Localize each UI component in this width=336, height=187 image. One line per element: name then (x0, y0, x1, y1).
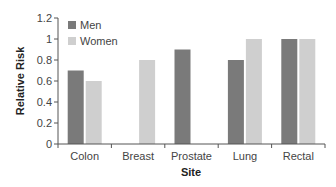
y-tick-label: 1 (46, 33, 52, 45)
bar-men-lung (228, 60, 244, 144)
bar-women-breast (139, 60, 155, 144)
bar-men-prostate (175, 50, 191, 145)
y-tick-label: 0.6 (37, 75, 52, 87)
x-tick-label: Colon (70, 150, 99, 162)
x-axis-title: Site (181, 166, 201, 178)
bar-women-lung (246, 39, 262, 144)
bars (68, 39, 316, 144)
x-tick-label: Breast (122, 150, 154, 162)
legend-label-men: Men (80, 19, 101, 31)
legend-swatch-women (68, 37, 76, 45)
y-tick-label: 1.2 (37, 12, 52, 24)
legend-label-women: Women (80, 35, 118, 47)
x-tick-label: Prostate (171, 150, 212, 162)
y-tick-label: 0.4 (37, 96, 52, 108)
legend: MenWomen (68, 19, 118, 47)
y-tick-label: 0.2 (37, 117, 52, 129)
bar-men-rectal (281, 39, 297, 144)
x-tick-label: Rectal (283, 150, 314, 162)
y-axis: 00.20.40.60.811.2 (37, 12, 58, 150)
y-tick-label: 0.8 (37, 54, 52, 66)
x-tick-label: Lung (233, 150, 257, 162)
bar-men-colon (68, 71, 84, 145)
bar-women-colon (86, 81, 102, 144)
bar-chart: 00.20.40.60.811.2 ColonBreastProstateLun… (0, 0, 336, 187)
x-axis: ColonBreastProstateLungRectal (58, 144, 325, 162)
bar-women-rectal (299, 39, 315, 144)
legend-swatch-men (68, 21, 76, 29)
y-axis-title: Relative Risk (14, 46, 26, 115)
y-tick-label: 0 (46, 138, 52, 150)
